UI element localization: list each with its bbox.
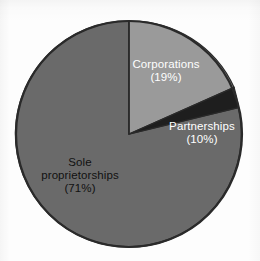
slice-label-corporations-name: Corporations	[118, 58, 214, 71]
slice-label-sole-proprietorships-value: (71%)	[22, 182, 138, 195]
slice-label-partnerships-name: Partnerships	[152, 120, 252, 133]
slice-label-sole-proprietorships-line1: Sole	[22, 156, 138, 169]
slice-label-sole-proprietorships-line2: proprietorships	[22, 169, 138, 182]
slice-label-sole-proprietorships: Sole proprietorships (71%)	[22, 156, 138, 195]
slice-label-partnerships: Partnerships (10%)	[152, 120, 252, 146]
slice-label-corporations: Corporations (19%)	[118, 58, 214, 84]
slice-label-partnerships-value: (10%)	[152, 133, 252, 146]
pie-chart-figure: Corporations (19%) Partnerships (10%) So…	[0, 0, 260, 261]
slice-label-corporations-value: (19%)	[118, 71, 214, 84]
